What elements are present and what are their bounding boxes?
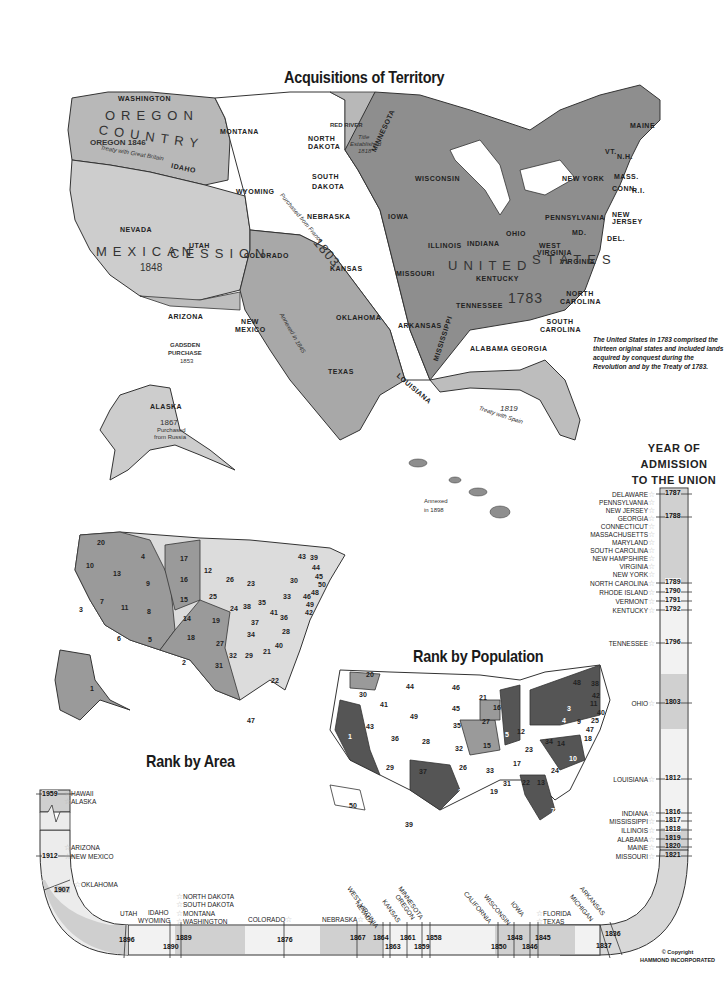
star-icon: ☆	[648, 570, 655, 579]
pop-rank-mo: 15	[483, 742, 491, 749]
pop-rank-ct: 25	[591, 717, 599, 724]
note-gadsden-year: 1853	[180, 358, 193, 364]
pop-rank-ia: 27	[482, 718, 490, 725]
year-label: 1864	[373, 934, 389, 941]
pop-rank-nh: 42	[592, 692, 600, 699]
pop-rank-ne: 35	[453, 722, 461, 729]
star-icon: ☆	[64, 843, 71, 852]
note-red-river: RED RIVER	[330, 122, 363, 128]
admission-title-3: TO THE UNION	[624, 472, 724, 488]
bottom-state-utah: UTAH	[120, 910, 137, 917]
area-rank-ks: 14	[183, 615, 191, 622]
star-icon: ☆	[64, 797, 71, 806]
admission-state: MISSISSIPPI	[609, 818, 648, 825]
admission-state: TENNESSEE	[609, 640, 648, 647]
area-rank-tx: 2	[182, 659, 186, 666]
pop-rank-fl: 7	[551, 807, 555, 814]
pop-rank-al: 22	[522, 779, 530, 786]
label-texas: TEXAS	[328, 368, 354, 375]
year-label: 1876	[277, 936, 293, 943]
star-icon: ☆	[648, 588, 655, 597]
star-icon: ☆	[648, 579, 655, 588]
copyright-line-2: HAMMOND INCORPORATED	[630, 956, 725, 964]
note-alaska-russia: from Russia	[154, 434, 186, 440]
label-arkansas: ARKANSAS	[398, 322, 442, 329]
year-label: 1845	[535, 934, 551, 941]
admission-state: ARIZONA	[71, 844, 100, 851]
year-label: 1803	[665, 698, 681, 705]
label-oklahoma: OKLAHOMA	[336, 314, 381, 321]
label-new-mexico: NEW MEXICO	[235, 318, 265, 334]
note-gadsden: GADSDEN	[170, 342, 200, 348]
star-icon: ☆	[285, 915, 292, 924]
label-indiana: INDIANA	[467, 240, 500, 247]
label-new-jersey: NEW JERSEY	[612, 211, 636, 225]
year-label: 1867	[350, 934, 366, 941]
year-label: 1912	[42, 852, 58, 859]
area-rank-oh: 35	[258, 599, 266, 606]
admission-state: MISSOURI	[616, 853, 648, 860]
pop-rank-il: 5	[505, 731, 509, 738]
star-icon: ☆	[648, 639, 655, 648]
star-icon: ☆	[176, 900, 183, 909]
year-label: 1818	[665, 825, 681, 832]
label-wisconsin: WISCONSIN	[415, 175, 460, 182]
year-label: 1896	[119, 936, 135, 943]
area-rank-ca: 3	[79, 606, 83, 613]
area-rank-mo: 19	[212, 617, 220, 624]
label-new-hampshire: N.H.	[617, 153, 633, 160]
pop-rank-de: 47	[586, 726, 594, 733]
admission-state: MARYLAND	[612, 539, 648, 546]
star-icon: ☆	[536, 917, 543, 926]
note-mexican-year: 1848	[140, 262, 162, 273]
admission-state: NEW JERSEY	[606, 507, 648, 514]
admission-state: WASHINGTON	[183, 918, 227, 925]
pop-rank-az: 29	[386, 764, 394, 771]
pop-rank-ar: 33	[486, 767, 494, 774]
pop-rank-ak: 50	[349, 802, 357, 809]
star-icon: ☆	[648, 826, 655, 835]
area-rank-pa: 33	[283, 593, 291, 600]
area-rank-ky: 37	[251, 619, 259, 626]
copyright-line-1: © Copyright	[630, 948, 725, 956]
pop-rank-co: 28	[422, 738, 430, 745]
admission-row: ☆NEW MEXICO	[64, 852, 114, 861]
year-label: 1816	[665, 808, 681, 815]
star-icon: ☆	[176, 917, 183, 926]
bottom-state-texas: ☆TEXAS	[536, 917, 564, 926]
note-alaska-year: 1867	[160, 418, 178, 427]
label-maine: MAINE	[630, 122, 655, 129]
label-north-carolina: NORTH CAROLINA	[560, 290, 600, 306]
area-rank-de: 49	[306, 601, 314, 608]
region-states: STATES	[532, 252, 617, 267]
pop-rank-wv: 34	[545, 738, 553, 745]
pop-rank-pa: 4	[562, 717, 566, 724]
pop-rank-id: 41	[380, 701, 388, 708]
year-label: 1861	[400, 934, 416, 941]
rank-by-area-title: Rank by Area	[146, 752, 235, 772]
area-rank-co: 8	[147, 608, 151, 615]
area-rank-ut: 11	[121, 604, 128, 611]
star-icon: ☆	[648, 699, 655, 708]
pop-rank-ma: 11	[590, 700, 597, 707]
pop-rank-tx: 2	[458, 788, 462, 795]
admission-state: NEW YORK	[613, 571, 648, 578]
label-south-carolina: SOUTH CAROLINA	[540, 318, 580, 334]
area-rank-al: 29	[245, 652, 253, 659]
year-label: 1790	[665, 587, 681, 594]
admission-state: RHODE ISLAND	[599, 589, 648, 596]
year-label: 1792	[665, 605, 681, 612]
area-rank-ny: 30	[290, 577, 298, 584]
label-delaware: DEL.	[607, 235, 625, 242]
area-rank-wa: 20	[97, 539, 105, 546]
admission-title-2: ADMISSION	[624, 456, 724, 472]
pop-rank-ky: 23	[525, 746, 533, 753]
region-oregon-1: OREGON	[105, 108, 199, 123]
star-icon: ☆	[648, 775, 655, 784]
star-icon: ☆	[648, 817, 655, 826]
area-rank-la: 31	[215, 662, 223, 669]
region-mexican-2: CESSION	[170, 246, 271, 261]
admission-state: COLORADO	[248, 916, 285, 923]
year-label: 1837	[596, 942, 612, 949]
area-rank-ct: 48	[311, 589, 319, 596]
